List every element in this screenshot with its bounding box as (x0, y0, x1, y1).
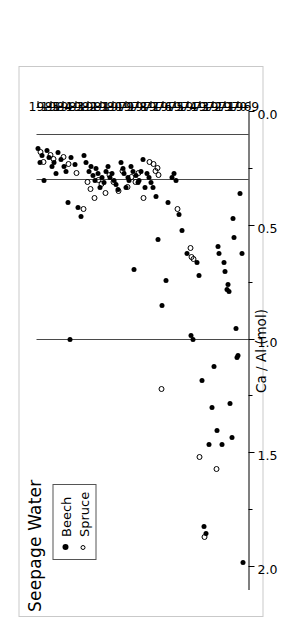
year-axis: 1969197019711972197319741975197619771978… (36, 107, 248, 108)
data-point-beech (230, 217, 235, 222)
filled-circle-icon (61, 543, 70, 552)
data-point-beech (95, 171, 100, 176)
data-point-beech (55, 151, 60, 156)
data-point-beech (231, 235, 236, 240)
data-point-beech (86, 169, 91, 174)
data-point-beech (163, 278, 168, 283)
data-point-beech (190, 337, 195, 342)
value-axis-minor-tick (248, 282, 252, 283)
data-point-beech (63, 169, 68, 174)
data-point-beech (199, 378, 204, 383)
data-point-beech (67, 337, 72, 342)
data-point-spruce (84, 179, 90, 185)
data-point-beech (65, 201, 70, 206)
data-point-beech (229, 435, 234, 440)
data-point-beech (83, 160, 88, 165)
data-point-beech (130, 169, 135, 174)
value-axis-minor-tick (248, 168, 252, 169)
data-point-beech (78, 214, 83, 219)
data-point-beech (239, 251, 244, 256)
data-point-spruce (40, 159, 46, 165)
data-point-beech (144, 171, 149, 176)
data-point-beech (215, 244, 220, 249)
data-point-beech (165, 201, 170, 206)
data-point-spruce (87, 186, 93, 192)
data-point-beech (81, 153, 86, 158)
data-point-beech (179, 228, 184, 233)
data-point-beech (201, 524, 206, 529)
data-point-spruce (73, 170, 79, 176)
value-axis: 0.00.51.01.52.0 (248, 112, 249, 590)
data-point-beech (209, 405, 214, 410)
year-axis-tick (37, 101, 38, 108)
data-point-beech (118, 160, 123, 165)
value-axis-minor-tick (248, 396, 252, 397)
data-point-spruce (102, 190, 108, 196)
legend-item: Beech (57, 492, 73, 552)
data-point-beech (224, 287, 229, 292)
data-point-beech (153, 194, 158, 199)
data-point-spruce (110, 179, 116, 185)
open-circle-icon (79, 543, 88, 552)
chart-stage: Seepage Water 0.00.51.01.52.0 Ca / Al (m… (0, 0, 285, 620)
data-point-spruce (65, 161, 71, 167)
data-point-spruce (124, 184, 130, 190)
data-point-beech (72, 162, 77, 167)
legend: BeechSpruce (52, 484, 96, 560)
data-point-beech (227, 401, 232, 406)
data-point-beech (221, 260, 226, 265)
data-point-spruce (47, 152, 53, 158)
value-axis-minor-tick (248, 509, 252, 510)
data-point-beech (53, 171, 58, 176)
data-point-beech (214, 428, 219, 433)
data-point-spruce (91, 195, 97, 201)
data-point-beech (148, 180, 153, 185)
data-point-spruce (115, 188, 121, 194)
data-point-beech (216, 251, 221, 256)
data-point-spruce (146, 159, 152, 165)
data-point-beech (159, 303, 164, 308)
data-point-beech (155, 237, 160, 242)
data-point-beech (211, 364, 216, 369)
data-point-beech (49, 164, 54, 169)
data-point-spruce (132, 179, 138, 185)
year-axis-tick-label: 1985 (28, 99, 60, 114)
reference-line (36, 179, 248, 180)
data-point-beech (140, 157, 145, 162)
data-point-beech (90, 173, 95, 178)
data-point-beech (150, 185, 155, 190)
data-point-beech (206, 442, 211, 447)
data-point-spruce (201, 534, 207, 540)
data-point-spruce (187, 245, 193, 251)
data-point-spruce (152, 168, 158, 174)
data-point-beech (222, 269, 227, 274)
data-point-spruce (80, 206, 86, 212)
data-point-spruce (158, 386, 164, 392)
reference-line (36, 134, 248, 135)
data-point-spruce (213, 466, 219, 472)
data-point-spruce (174, 206, 180, 212)
value-axis-label: Ca / Al (mol) (252, 112, 268, 590)
data-point-beech (68, 155, 73, 160)
data-point-spruce (60, 154, 66, 160)
data-point-beech (196, 273, 201, 278)
data-point-spruce (119, 168, 125, 174)
data-point-spruce (196, 455, 202, 461)
data-point-spruce (135, 170, 141, 176)
legend-item-label: Spruce (76, 492, 91, 537)
data-point-spruce (140, 195, 146, 201)
data-point-beech (41, 178, 46, 183)
data-point-beech (142, 185, 147, 190)
legend-item-label: Beech (58, 497, 73, 537)
rotated-figure: Seepage Water 0.00.51.01.52.0 Ca / Al (m… (0, 0, 285, 620)
data-point-beech (233, 326, 238, 331)
data-point-beech (176, 212, 181, 217)
data-point-beech (237, 191, 242, 196)
data-point-beech (240, 560, 245, 565)
data-point-beech (234, 355, 239, 360)
legend-item: Spruce (75, 492, 91, 552)
data-point-beech (219, 442, 224, 447)
data-point-beech (131, 267, 136, 272)
data-point-spruce (95, 177, 101, 183)
data-point-spruce (106, 172, 112, 178)
